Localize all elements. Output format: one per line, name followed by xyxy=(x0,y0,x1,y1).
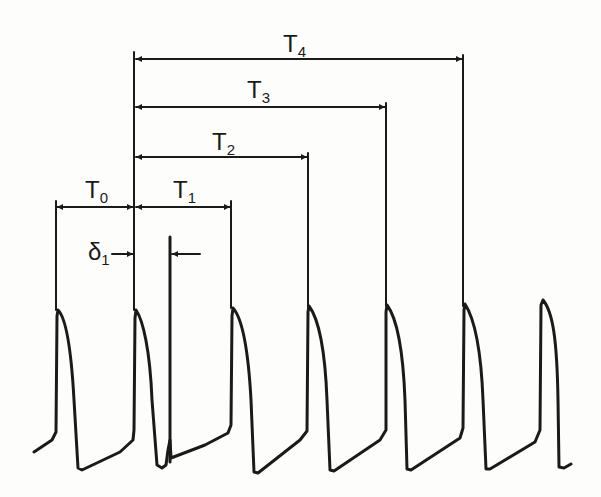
label-t1-sub: 1 xyxy=(188,189,196,206)
label-t4: T4 xyxy=(283,32,306,59)
action-potential-trace xyxy=(34,300,571,473)
label-t2-sub: 2 xyxy=(227,141,235,158)
label-t1-base: T xyxy=(173,176,188,203)
label-t3-base: T xyxy=(247,76,262,103)
diagram-canvas: T4 T3 T2 T0 T1 δ1 xyxy=(0,0,601,497)
label-delta1: δ1 xyxy=(88,240,110,267)
label-t3-sub: 3 xyxy=(262,89,270,106)
label-t0-sub: 0 xyxy=(100,189,108,206)
label-t2: T2 xyxy=(212,130,235,157)
label-delta1-sub: 1 xyxy=(101,251,109,268)
label-t2-base: T xyxy=(212,128,227,155)
label-t4-base: T xyxy=(283,30,298,57)
label-t0-base: T xyxy=(85,176,100,203)
label-t1: T1 xyxy=(173,178,196,205)
label-t0: T0 xyxy=(85,178,108,205)
label-delta1-base: δ xyxy=(88,238,101,265)
label-t4-sub: 4 xyxy=(298,43,306,60)
label-t3: T3 xyxy=(247,78,270,105)
interval-t2-bracket xyxy=(136,153,308,307)
